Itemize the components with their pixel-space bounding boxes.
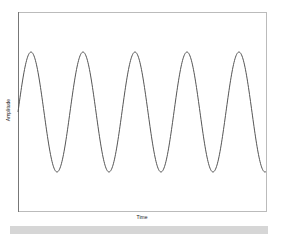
scroll-bar[interactable]: [10, 226, 268, 234]
y-axis-label: Amplitude: [5, 90, 11, 130]
sine-wave-line: [18, 52, 266, 172]
line-chart: [0, 0, 282, 234]
x-axis-label: Time: [122, 214, 162, 220]
